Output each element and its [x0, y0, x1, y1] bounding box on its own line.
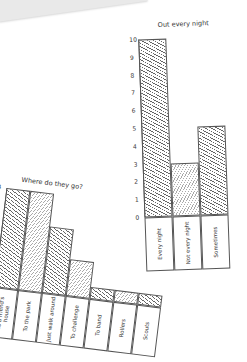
- y-tick-label: 9: [130, 54, 134, 61]
- y-tick-label: 7: [131, 89, 135, 96]
- bar: [197, 126, 228, 216]
- chart-title: Out every night: [158, 19, 209, 29]
- y-tick-label: 5: [132, 125, 136, 132]
- category-label: To a friend's house: [0, 290, 12, 337]
- category-label: Just walk around: [45, 296, 57, 342]
- y-tick-label: 10: [129, 36, 137, 43]
- paper-note: some: [0, 0, 148, 22]
- note-text: some: [31, 0, 64, 2]
- y-tick-label: 3: [134, 160, 138, 167]
- category-label: To challenge: [69, 299, 81, 345]
- where-do-they-go-chart: Where do they go? 01234To a friend's hou…: [0, 175, 179, 362]
- chart-title: Where do they go?: [21, 176, 83, 191]
- y-tick-label: 4: [0, 183, 2, 190]
- y-tick-label: 2: [134, 178, 138, 185]
- y-tick-label: 8: [130, 71, 134, 78]
- category-label: To the park: [21, 293, 33, 339]
- category-label: To band: [93, 302, 105, 348]
- category-label: Not every night: [184, 218, 192, 268]
- category-label: Scouts: [140, 308, 152, 354]
- category-cell: Sometimes: [200, 215, 230, 270]
- category-label: Rollers: [116, 305, 128, 351]
- category-cell: Not every night: [172, 216, 202, 271]
- category-cell: Scouts: [131, 305, 161, 358]
- bar: [138, 39, 172, 218]
- y-tick-label: 6: [132, 107, 136, 114]
- category-label: Sometimes: [212, 217, 220, 267]
- y-tick-label: 4: [133, 142, 137, 149]
